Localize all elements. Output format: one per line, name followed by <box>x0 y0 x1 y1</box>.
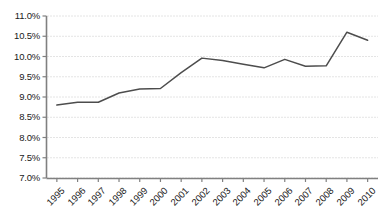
y-axis-tick-label: 9.5% <box>0 71 40 82</box>
gridlines <box>48 16 379 178</box>
y-axis-tick-label: 7.0% <box>0 172 40 183</box>
y-axis-tick-label: 8.0% <box>0 132 40 143</box>
y-axis-tick-label: 8.5% <box>0 111 40 122</box>
y-axis-tick-label: 9.0% <box>0 91 40 102</box>
y-axis-tick-label: 10.0% <box>0 51 40 62</box>
y-axis-tick-label: 11.0% <box>0 10 40 21</box>
y-axis-tick-label: 10.5% <box>0 30 40 41</box>
y-axis-tick-label: 7.5% <box>0 152 40 163</box>
line-chart: 7.0%7.5%8.0%8.5%9.0%9.5%10.0%10.5%11.0% … <box>0 0 386 221</box>
data-series-line <box>57 32 368 105</box>
